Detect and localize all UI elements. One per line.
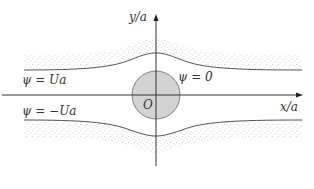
streamline-label-upper: ψ = Ua — [22, 74, 66, 86]
x-axis-arrow-icon — [296, 93, 303, 98]
streamline-label-lower: ψ = −Ua — [22, 105, 76, 117]
lower-stipple-region — [24, 120, 302, 153]
streamline-label-center: ψ = 0 — [178, 71, 213, 83]
x-axis-label: x/a — [280, 101, 298, 113]
y-axis-arrow-icon — [154, 14, 159, 21]
y-axis-label: y/a — [129, 11, 147, 23]
flow-diagram — [0, 0, 314, 189]
origin-label: O — [143, 99, 153, 111]
